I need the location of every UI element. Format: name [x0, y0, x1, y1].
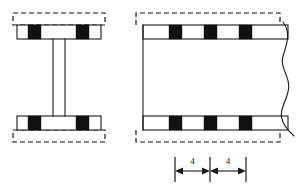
cross-section-dashed-outline-top — [13, 13, 105, 25]
cross-section-connector-block — [28, 25, 41, 39]
elevation-connector-block-top — [169, 25, 182, 39]
elevation-view — [136, 13, 308, 142]
elevation-dashed-outline-top — [136, 13, 280, 25]
cross-section-view — [13, 13, 105, 142]
dimension-annotation-group: 4 4 — [175, 156, 246, 182]
drawing-canvas: 4 4 — [0, 0, 308, 189]
elevation-connector-block-bottom — [169, 116, 182, 130]
dimension-label-1: 4 — [190, 156, 195, 166]
cross-section-connector-block — [76, 116, 89, 130]
engineering-drawing-root: 4 4 — [0, 0, 308, 189]
cross-section-dashed-outline-bottom — [13, 130, 105, 142]
cross-section-connector-block — [28, 116, 41, 130]
elevation-connector-block-bottom — [204, 116, 217, 130]
elevation-dashed-outline-bottom — [136, 130, 280, 142]
cross-section-connector-block — [76, 25, 89, 39]
elevation-connector-block-top — [204, 25, 217, 39]
dimension-arrow-1 — [175, 168, 210, 175]
dimension-arrow-2 — [210, 168, 246, 175]
break-mask — [289, 20, 308, 135]
elevation-connector-block-top — [239, 25, 252, 39]
elevation-connector-block-bottom — [239, 116, 252, 130]
dimension-label-2: 4 — [226, 156, 231, 166]
